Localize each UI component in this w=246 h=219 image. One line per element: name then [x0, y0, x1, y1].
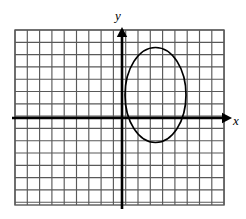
- figure-root: x y: [0, 0, 246, 219]
- coordinate-plane-figure: x y: [0, 0, 246, 219]
- y-axis-label: y: [113, 8, 121, 23]
- x-axis-label: x: [232, 113, 239, 128]
